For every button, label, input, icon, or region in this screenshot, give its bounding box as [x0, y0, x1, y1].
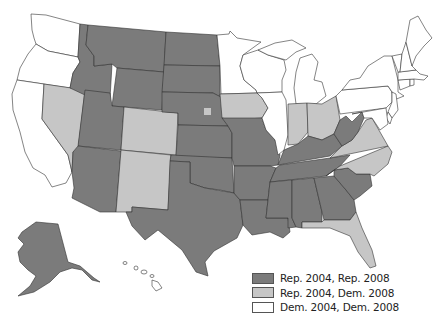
- legend-item-dem-dem: Dem. 2004, Dem. 2008: [252, 300, 399, 315]
- state-co: [121, 107, 178, 155]
- state-nm: [116, 150, 171, 212]
- state-ne-district: [204, 108, 211, 115]
- state-ct: [398, 79, 410, 90]
- state-az: [72, 146, 121, 212]
- legend-item-rep-rep: Rep. 2004, Rep. 2008: [252, 271, 399, 286]
- state-mt: [86, 25, 166, 72]
- legend-swatch-dem-dem: [252, 302, 274, 313]
- legend-label: Dem. 2004, Dem. 2008: [280, 301, 399, 313]
- legend-label: Rep. 2004, Rep. 2008: [280, 272, 389, 284]
- state-nd: [164, 32, 220, 66]
- legend-swatch-rep-rep: [252, 273, 274, 284]
- state-me: [406, 16, 432, 66]
- state-wy: [112, 68, 164, 110]
- legend-item-rep-dem: Rep. 2004, Dem. 2008: [252, 286, 399, 301]
- map-legend: Rep. 2004, Rep. 2008 Rep. 2004, Dem. 200…: [252, 271, 399, 315]
- state-ak: [18, 222, 100, 296]
- state-ks: [176, 125, 232, 158]
- state-hi: [123, 262, 162, 292]
- legend-swatch-rep-dem: [252, 287, 274, 298]
- state-ri: [410, 79, 414, 86]
- legend-label: Rep. 2004, Dem. 2008: [280, 287, 394, 299]
